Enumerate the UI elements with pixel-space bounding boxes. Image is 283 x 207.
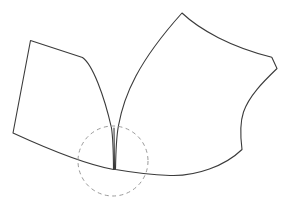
figure-root bbox=[0, 0, 283, 207]
canvas-background bbox=[0, 0, 283, 207]
geometry-diagram bbox=[0, 0, 283, 207]
seam-line bbox=[114, 128, 115, 170]
